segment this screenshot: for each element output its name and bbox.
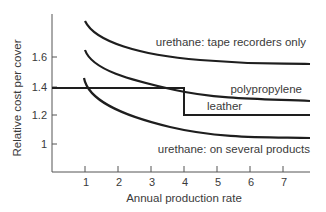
svg-text:3: 3	[149, 176, 155, 188]
svg-text:2: 2	[116, 176, 122, 188]
svg-text:1: 1	[83, 176, 89, 188]
svg-text:7: 7	[281, 176, 287, 188]
y-ticks	[52, 57, 57, 144]
svg-text:6: 6	[248, 176, 254, 188]
svg-text:4: 4	[182, 176, 188, 188]
svg-text:5: 5	[215, 176, 221, 188]
y-axis-title: Relative cost per cover	[11, 39, 23, 156]
cost-chart: 1 2 3 4 5 6 7 1 1.2 1.4 1.6 Annual produ…	[0, 0, 326, 212]
svg-text:1: 1	[41, 138, 47, 150]
svg-text:1.6: 1.6	[32, 51, 47, 63]
label-urethane-tape-recorders: urethane: tape recorders only	[156, 36, 306, 48]
x-tick-labels: 1 2 3 4 5 6 7	[83, 176, 287, 188]
label-urethane-several-products: urethane: on several products	[158, 143, 310, 155]
label-polypropylene: polypropylene	[230, 83, 302, 95]
svg-text:1.2: 1.2	[32, 109, 47, 121]
x-ticks	[85, 166, 283, 172]
x-axis-title: Annual production rate	[126, 192, 242, 204]
svg-text:1.4: 1.4	[32, 81, 47, 93]
y-tick-labels: 1 1.2 1.4 1.6	[32, 51, 47, 150]
label-leather: leather	[207, 100, 242, 112]
